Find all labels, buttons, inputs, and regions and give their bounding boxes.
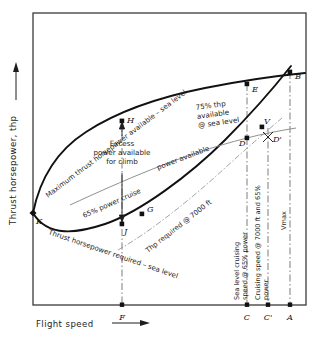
marker-B — [288, 70, 293, 75]
point-label-H: H — [126, 115, 135, 125]
tick-label-F: F — [118, 312, 125, 322]
label-excess-line2: power available — [94, 148, 152, 157]
callout-C-line2: speed @ 65% power — [241, 232, 249, 300]
label-excess-line1: Excess — [110, 139, 135, 148]
tick-marker-Cprime — [266, 303, 270, 307]
point-label-K: K — [35, 216, 43, 226]
callout-Cprime-line1: Cruising speed @ 7000 ft and 65% — [254, 185, 262, 300]
marker-E — [245, 82, 250, 87]
callout-Cprime-line2: power — [262, 279, 270, 300]
label-excess-line3: for climb — [106, 157, 138, 166]
point-label-G: G — [147, 204, 154, 214]
tick-label-A: A — [286, 312, 293, 322]
point-label-E: E — [251, 84, 258, 94]
marker-G — [140, 212, 145, 217]
point-label-Dprime: D' — [272, 134, 282, 144]
tick-marker-A — [288, 303, 292, 307]
callout-C-line1: Sea level cruising — [233, 242, 241, 300]
point-label-B: B — [294, 71, 301, 81]
callout-vmax: Vmax — [280, 211, 288, 230]
figure-canvas: Thrust horsepower, thp Flight speed — [0, 0, 326, 341]
tick-label-C: C — [244, 312, 251, 322]
tick-marker-C — [245, 303, 249, 307]
point-label-D: D — [238, 138, 246, 148]
tick-label-Cprime: C' — [264, 312, 273, 322]
y-axis-label: Thrust horsepower, thp — [8, 116, 18, 226]
vertical-callout-C: Sea level cruising speed @ 65% power — [233, 232, 249, 300]
thrust-horsepower-diagram: Thrust horsepower, thp Flight speed — [0, 0, 326, 341]
tick-marker-F — [120, 303, 124, 307]
x-axis-label: Flight speed — [36, 319, 93, 329]
